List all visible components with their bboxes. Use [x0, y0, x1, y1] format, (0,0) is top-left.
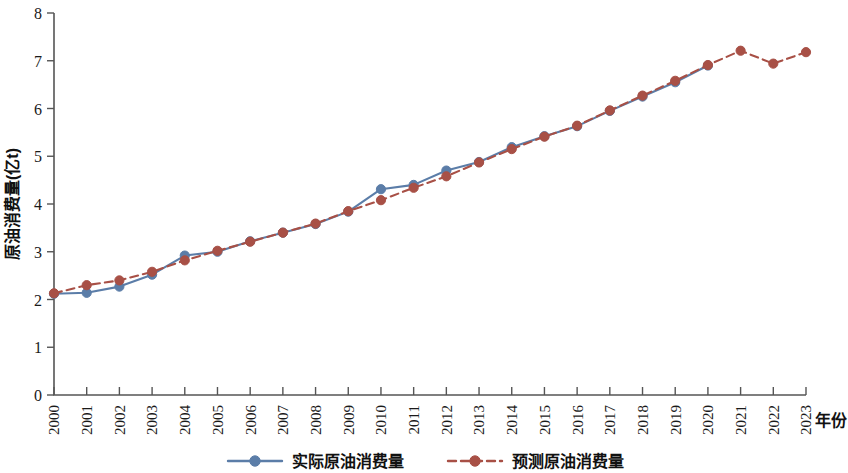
x-tick-label: 2003 — [144, 405, 160, 435]
x-tick-label: 2011 — [406, 405, 422, 434]
x-tick-label: 2014 — [504, 405, 520, 436]
x-tick-label: 2013 — [471, 405, 487, 435]
x-tick-label: 2007 — [275, 405, 291, 436]
data-point: 预测原油消费量 2007: 3.4 — [278, 228, 287, 237]
chart-canvas: 012345678 200020012002200320042005200620… — [0, 0, 848, 473]
data-point: 预测原油消费量 2018: 6.27 — [638, 91, 647, 100]
data-point: 预测原油消费量 2005: 3.02 — [213, 246, 222, 255]
chart-legend: 实际原油消费量预测原油消费量 — [228, 452, 624, 470]
x-tick-label: 2023 — [798, 405, 814, 435]
series-actual: 实际原油消费量 2000: 2.12实际原油消费量 2001: 2.14实际原油… — [49, 61, 712, 298]
x-tick-label: 2009 — [341, 405, 357, 435]
x-tick-label: 2002 — [112, 405, 128, 435]
series-line — [54, 51, 806, 294]
x-tick-label: 2010 — [373, 405, 389, 435]
data-point: 预测原油消费量 2013: 4.87 — [474, 158, 483, 167]
y-tick-label: 5 — [34, 148, 42, 165]
data-point: 预测原油消费量 2010: 4.08 — [376, 196, 385, 205]
y-tick-label: 0 — [34, 387, 42, 404]
data-point: 预测原油消费量 2016: 5.64 — [573, 121, 582, 130]
y-tick-label: 1 — [34, 339, 42, 356]
data-point: 预测原油消费量 2002: 2.4 — [115, 276, 124, 285]
x-tick-label: 2004 — [177, 405, 193, 436]
x-tick-label: 2019 — [668, 405, 684, 435]
legend-entry-forecast[interactable]: 预测原油消费量 — [448, 452, 624, 470]
x-tick-label: 2001 — [79, 405, 95, 435]
y-axis-ticks: 012345678 — [34, 5, 54, 404]
x-tick-label: 2022 — [766, 405, 782, 435]
data-point: 预测原油消费量 2022: 6.94 — [769, 59, 778, 68]
legend-label: 预测原油消费量 — [512, 452, 624, 470]
data-point: 预测原油消费量 2015: 5.41 — [540, 132, 549, 141]
y-tick-label: 4 — [34, 196, 42, 213]
x-tick-label: 2015 — [537, 405, 553, 435]
data-point: 预测原油消费量 2017: 5.96 — [605, 106, 614, 115]
y-tick-label: 6 — [34, 101, 42, 118]
x-tick-label: 2016 — [570, 405, 586, 436]
data-point: 预测原油消费量 2000: 2.13 — [49, 289, 58, 298]
legend-marker-swatch — [250, 456, 260, 466]
data-point: 实际原油消费量 2010: 4.31 — [376, 185, 385, 194]
data-point: 预测原油消费量 2023: 7.18 — [801, 48, 810, 57]
y-tick-label: 3 — [34, 244, 42, 261]
data-point: 预测原油消费量 2003: 2.58 — [147, 267, 156, 276]
series-line — [54, 66, 708, 294]
x-tick-label: 2020 — [700, 405, 716, 435]
x-tick-label: 2017 — [602, 405, 618, 436]
axis-spines — [54, 13, 806, 395]
chart-axes — [54, 13, 806, 395]
x-tick-label: 2021 — [733, 405, 749, 435]
x-axis-title: 年份 — [815, 411, 848, 429]
legend-label: 实际原油消费量 — [292, 452, 404, 470]
x-tick-label: 2008 — [308, 405, 324, 435]
y-tick-label: 8 — [34, 5, 42, 22]
series-forecast: 预测原油消费量 2000: 2.13预测原油消费量 2001: 2.3预测原油消… — [49, 46, 810, 298]
y-tick-label: 2 — [34, 292, 42, 309]
axis-titles-group: 原油消费量(亿t)年份 — [3, 148, 848, 429]
data-point: 预测原油消费量 2006: 3.21 — [246, 237, 255, 246]
y-tick-label: 7 — [34, 53, 42, 70]
data-point: 预测原油消费量 2019: 6.58 — [671, 76, 680, 85]
data-point: 预测原油消费量 2009: 3.85 — [344, 207, 353, 216]
crude-oil-consumption-chart: 012345678 200020012002200320042005200620… — [0, 0, 848, 473]
y-axis-title: 原油消费量(亿t) — [3, 148, 21, 260]
x-tick-label: 2006 — [243, 405, 259, 436]
data-point: 预测原油消费量 2021: 7.21 — [736, 46, 745, 55]
legend-entry-actual[interactable]: 实际原油消费量 — [228, 452, 404, 470]
x-tick-label: 2000 — [46, 405, 62, 435]
data-point: 预测原油消费量 2020: 6.91 — [703, 60, 712, 69]
x-tick-label: 2005 — [210, 405, 226, 435]
data-point: 预测原油消费量 2011: 4.34 — [409, 183, 418, 192]
data-point: 预测原油消费量 2001: 2.3 — [82, 281, 91, 290]
data-point: 预测原油消费量 2012: 4.58 — [442, 172, 451, 181]
data-point: 预测原油消费量 2008: 3.59 — [311, 219, 320, 228]
legend-marker-swatch — [470, 456, 480, 466]
data-series-group: 实际原油消费量 2000: 2.12实际原油消费量 2001: 2.14实际原油… — [49, 46, 810, 298]
data-point: 预测原油消费量 2004: 2.82 — [180, 256, 189, 265]
x-tick-label: 2012 — [439, 405, 455, 435]
x-tick-label: 2018 — [635, 405, 651, 435]
data-point: 预测原油消费量 2014: 5.15 — [507, 144, 516, 153]
